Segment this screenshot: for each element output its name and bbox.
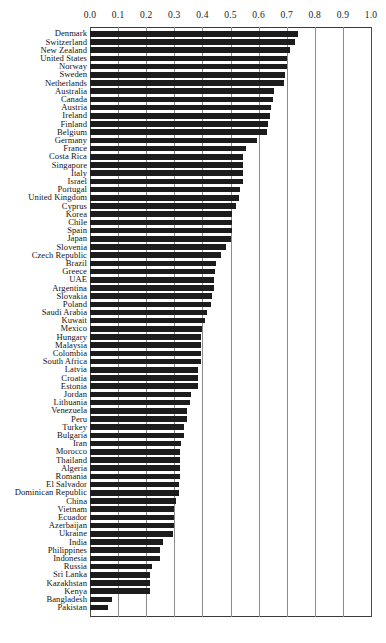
x-tick-label: 0.7 [280,10,292,20]
bar [90,47,290,53]
bar [90,269,215,275]
bar [90,498,176,504]
bar [90,244,226,250]
bar [90,515,174,521]
bar [90,121,268,127]
bar [90,588,150,594]
bar [90,88,274,94]
bar [90,170,243,176]
bar [90,367,198,373]
bar [90,482,179,488]
bar [90,580,150,586]
bars-layer [90,27,371,617]
bar [90,154,243,160]
bar [90,441,181,447]
bar [90,465,180,471]
category-labels: DenmarkSwitzerlandNew ZealandUnited Stat… [0,27,87,617]
bar [90,285,214,291]
bar [90,457,180,463]
bar [90,302,211,308]
bar [90,597,112,603]
x-tick-label: 0.2 [140,10,152,20]
bar [90,326,202,332]
bar [90,449,180,455]
bar [90,506,174,512]
x-tick-label: 0.0 [84,10,96,20]
bar [90,72,285,78]
bar [90,408,187,414]
bar [90,261,216,267]
bar [90,203,236,209]
bar [90,31,298,37]
x-tick-label: 1.0 [365,10,377,20]
bar [90,236,231,242]
bar [90,556,160,562]
bar [90,293,212,299]
bar [90,56,287,62]
bar [90,392,191,398]
bar [90,187,240,193]
bar-chart: 0.00.10.20.30.40.50.60.70.80.91.0 Denmar… [0,0,386,643]
bar [90,105,271,111]
bar [90,195,239,201]
bar [90,572,150,578]
bar [90,252,221,258]
bar [90,318,205,324]
bar [90,179,243,185]
bar [90,138,257,144]
x-tick-label: 0.4 [196,10,208,20]
bar [90,64,287,70]
bar [90,547,160,553]
bar [90,351,201,357]
x-tick-label: 0.5 [224,10,236,20]
bar [90,433,184,439]
bar [90,416,187,422]
bar [90,97,273,103]
x-axis-top: 0.00.10.20.30.40.50.60.70.80.91.0 [0,10,386,24]
x-tick-label: 0.9 [337,10,349,20]
bar [90,277,214,283]
bar [90,39,295,45]
bar [90,129,267,135]
bar [90,490,179,496]
plot-area [90,27,371,617]
bar [90,220,232,226]
bar [90,375,198,381]
category-label: Pakistan [0,603,87,612]
bar [90,342,201,348]
bar [90,146,246,152]
bar [90,539,163,545]
bar [90,564,152,570]
x-tick-label: 0.8 [309,10,321,20]
bar [90,400,190,406]
gridline [371,27,372,617]
bar [90,80,284,86]
x-tick-label: 0.6 [252,10,264,20]
bar [90,531,173,537]
bar [90,474,180,480]
bar [90,211,232,217]
x-tick-label: 0.3 [168,10,180,20]
x-tick-label: 0.1 [112,10,124,20]
bar [90,162,243,168]
bar [90,334,201,340]
bar [90,424,184,430]
bar [90,523,174,529]
bar [90,113,270,119]
bar [90,383,198,389]
bar [90,310,207,316]
bar [90,359,201,365]
bar [90,605,108,611]
bar [90,228,232,234]
